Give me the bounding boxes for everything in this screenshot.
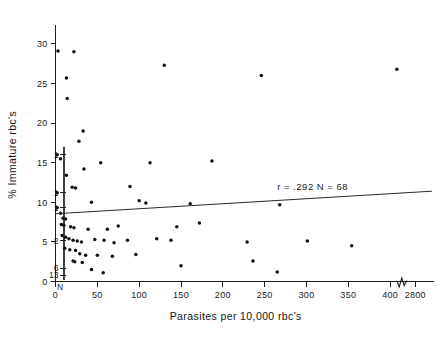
data-point	[62, 224, 66, 228]
data-point	[112, 241, 116, 245]
data-point	[175, 225, 179, 229]
data-point	[260, 74, 264, 78]
data-point	[251, 259, 255, 263]
data-point	[67, 237, 71, 241]
data-point	[74, 186, 78, 190]
y-axis-tick-label: 20	[37, 118, 48, 128]
data-point	[56, 49, 60, 53]
regression-line-layer	[56, 191, 433, 214]
data-point	[111, 254, 115, 258]
data-point	[126, 239, 130, 243]
data-point	[90, 201, 94, 205]
data-point	[179, 264, 183, 268]
x-axis-title: Parasites per 10,000 rbc's	[170, 310, 302, 322]
scatter-plot-figure: 0510152025300501001502002503003504002800…	[0, 0, 437, 337]
data-point	[155, 237, 159, 241]
data-point	[78, 252, 82, 256]
x-axis-tick-label: 350	[340, 290, 356, 300]
data-point	[306, 239, 310, 243]
data-point	[117, 224, 121, 228]
data-point	[99, 161, 103, 165]
y-axis-title: % Immature rbc's	[6, 111, 18, 199]
data-point	[86, 227, 90, 231]
data-point	[72, 226, 76, 230]
x-axis-tick-label: 50	[92, 290, 103, 300]
data-point	[80, 240, 84, 244]
data-point	[74, 249, 78, 253]
data-point	[90, 268, 94, 272]
data-point	[72, 50, 76, 54]
data-point	[70, 185, 74, 189]
plot-canvas: 0510152025300501001502002503003504002800…	[0, 0, 437, 337]
data-point	[169, 239, 173, 243]
data-point	[188, 202, 192, 206]
data-point	[63, 246, 67, 250]
data-point	[245, 240, 249, 244]
data-point	[73, 260, 77, 264]
x-axis-tick-label: 400	[382, 290, 398, 300]
x-axis-tick-label: 150	[173, 290, 189, 300]
data-point	[210, 159, 214, 163]
x-axis-tick-label: 250	[257, 290, 273, 300]
x-axis-tick-label: 100	[131, 290, 147, 300]
data-point	[60, 234, 64, 238]
data-point	[69, 225, 73, 229]
x-axis-break-mark	[397, 278, 407, 287]
data-point	[82, 167, 86, 171]
data-point	[163, 63, 167, 67]
data-points-layer	[55, 49, 398, 274]
y-axis-tick-label: 10	[37, 198, 48, 208]
data-point	[55, 206, 59, 210]
data-point	[395, 67, 399, 71]
x-axis-tick-label: 2800	[405, 290, 426, 300]
data-point	[59, 157, 63, 161]
y-axis-tick-label: 5	[42, 237, 47, 247]
data-point	[93, 238, 97, 242]
y-axis-tick-label: 30	[37, 39, 48, 49]
data-point	[101, 271, 105, 275]
data-point	[278, 203, 282, 207]
data-point	[55, 191, 59, 195]
data-point	[96, 254, 100, 258]
data-point	[81, 129, 85, 133]
data-point	[84, 254, 88, 258]
data-point	[134, 253, 138, 256]
x-axis-tick-label: 200	[215, 290, 231, 300]
data-point	[102, 239, 106, 243]
data-point	[350, 244, 354, 248]
data-point	[77, 140, 81, 144]
axes-layer: 0510152025300501001502002503003504002800	[37, 25, 434, 300]
data-point	[148, 161, 152, 165]
data-point	[144, 201, 148, 205]
y-axis-tick-label: 15	[37, 158, 48, 168]
data-point	[106, 227, 110, 231]
data-point	[128, 185, 132, 189]
data-point	[68, 248, 72, 252]
correlation-annotation: r = .292 N = 68	[277, 181, 348, 192]
data-point	[198, 221, 202, 225]
data-point	[81, 261, 85, 265]
y-axis-tick-label: 25	[37, 79, 48, 89]
y-axis-tick-label: 0	[42, 277, 47, 287]
x-axis-tick-label: 300	[299, 290, 315, 300]
data-point	[65, 76, 69, 80]
marginal-count-label: 2	[54, 236, 59, 246]
data-point	[65, 174, 69, 178]
marginal-count-axis-label: N	[57, 282, 63, 292]
data-point	[71, 239, 75, 243]
data-point	[64, 235, 68, 239]
marginal-count-label: 13	[49, 270, 59, 280]
data-point	[275, 270, 279, 274]
data-point	[76, 239, 80, 243]
data-point	[55, 153, 59, 157]
data-point	[64, 217, 68, 221]
data-point	[65, 97, 69, 101]
regression-line	[56, 191, 433, 214]
data-point	[137, 199, 141, 203]
